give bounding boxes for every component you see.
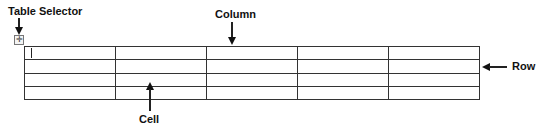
table-cell[interactable] [298,86,389,99]
table-cell[interactable] [207,60,298,73]
table-row [25,47,480,60]
cell-label: Cell [139,113,159,125]
table-cell[interactable] [116,86,207,99]
table-cell[interactable] [25,73,116,86]
table-cell[interactable] [298,47,389,60]
table-row [25,60,480,73]
table-cell[interactable] [298,60,389,73]
table-selector-handle[interactable]: ✛ [14,35,24,45]
table-cell[interactable] [207,86,298,99]
table-cell[interactable] [389,60,480,73]
table-cell[interactable] [116,73,207,86]
table-row [25,86,480,99]
row-label: Row [512,60,535,72]
table-grid [24,46,480,100]
table-selector-label: Table Selector [8,5,82,17]
column-arrow-head-icon [228,37,236,45]
table-cell[interactable] [389,47,480,60]
table-cell[interactable] [298,73,389,86]
table-cell[interactable] [389,73,480,86]
column-arrow-shaft [231,22,233,38]
table-cell[interactable] [25,60,116,73]
table-cell[interactable] [116,47,207,60]
table-cell[interactable] [116,60,207,73]
table-cell[interactable] [25,47,116,60]
move-cross-icon: ✛ [16,35,23,44]
table-row [25,73,480,86]
table-cell[interactable] [207,73,298,86]
table-cell[interactable] [207,47,298,60]
cell-arrow-shaft [149,89,151,111]
text-cursor [31,48,32,58]
row-arrow-shaft [489,66,507,68]
table-selector-arrow-head-icon [15,27,23,35]
table-cell[interactable] [389,86,480,99]
column-label: Column [215,8,256,20]
table-cell[interactable] [25,86,116,99]
